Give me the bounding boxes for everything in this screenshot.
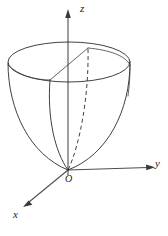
z-axis-arrowhead — [65, 9, 71, 18]
z-axis-label: z — [80, 3, 84, 14]
paraboloid-surface — [8, 42, 130, 170]
x-axis — [23, 170, 68, 207]
y-axis-label: y — [155, 158, 160, 169]
x-axis-arrowhead — [23, 200, 32, 207]
figure-canvas — [0, 0, 168, 236]
y-axis-arrowhead — [146, 165, 155, 171]
z-axis — [65, 9, 71, 175]
interior-near-rim-arc — [8, 65, 50, 80]
wedge-edge-curve-hidden — [68, 49, 88, 170]
origin-label: O — [65, 174, 72, 184]
paraboloid-figure: z y x O — [0, 0, 168, 236]
inner-rim-arc — [88, 48, 130, 65]
axes-group — [23, 9, 155, 207]
y-axis-line — [68, 168, 148, 171]
wedge-radius-line — [50, 48, 88, 80]
wedge-edge-curve-visible — [49, 80, 68, 170]
y-axis — [68, 165, 155, 171]
x-axis-line — [29, 170, 68, 202]
x-axis-label: x — [13, 209, 18, 220]
